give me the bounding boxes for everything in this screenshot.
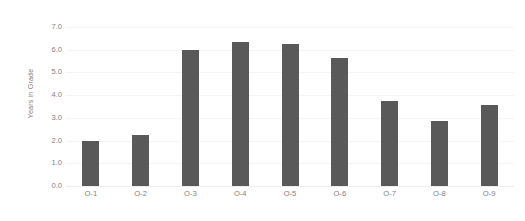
x-axis-tick-labels: O-1O-2O-3O-4O-5O-6O-7O-8O-9 xyxy=(66,190,514,204)
bar-slot xyxy=(265,27,315,186)
bar[interactable] xyxy=(381,101,398,186)
x-tick-label: O-4 xyxy=(234,190,247,198)
x-tick-label: O-8 xyxy=(433,190,446,198)
bar[interactable] xyxy=(282,44,299,186)
gridline xyxy=(66,186,514,187)
bar-slot xyxy=(66,27,116,186)
bar[interactable] xyxy=(132,135,149,186)
bar-slot xyxy=(215,27,265,186)
x-tick-label: O-1 xyxy=(85,190,98,198)
y-tick-label: 1.0 xyxy=(38,159,62,167)
plot-area xyxy=(66,27,514,186)
x-tick-slot: O-2 xyxy=(116,190,166,204)
x-tick-slot: O-6 xyxy=(315,190,365,204)
x-tick-label: O-9 xyxy=(483,190,496,198)
bar-slot xyxy=(414,27,464,186)
bar[interactable] xyxy=(232,42,249,186)
bars-layer xyxy=(66,27,514,186)
bar-slot xyxy=(166,27,216,186)
bar[interactable] xyxy=(481,105,498,186)
bar[interactable] xyxy=(82,141,99,186)
x-tick-label: O-2 xyxy=(134,190,147,198)
x-tick-slot: O-8 xyxy=(414,190,464,204)
bar-slot xyxy=(464,27,514,186)
y-tick-label: 3.0 xyxy=(38,114,62,122)
bar[interactable] xyxy=(331,58,348,186)
x-tick-label: O-6 xyxy=(333,190,346,198)
x-tick-slot: O-9 xyxy=(464,190,514,204)
x-tick-slot: O-3 xyxy=(166,190,216,204)
x-tick-label: O-5 xyxy=(284,190,297,198)
y-tick-label: 6.0 xyxy=(38,46,62,54)
bar-slot xyxy=(315,27,365,186)
x-tick-slot: O-7 xyxy=(365,190,415,204)
bar-slot xyxy=(365,27,415,186)
y-tick-label: 7.0 xyxy=(38,23,62,31)
bar-chart: Years in Grade 7.06.05.04.03.02.01.00.0 … xyxy=(0,0,525,221)
x-tick-label: O-3 xyxy=(184,190,197,198)
x-tick-slot: O-5 xyxy=(265,190,315,204)
bar[interactable] xyxy=(431,121,448,186)
y-tick-label: 0.0 xyxy=(38,182,62,190)
y-tick-label: 4.0 xyxy=(38,91,62,99)
x-tick-slot: O-1 xyxy=(66,190,116,204)
x-tick-slot: O-4 xyxy=(215,190,265,204)
y-axis-tick-labels: 7.06.05.04.03.02.01.00.0 xyxy=(38,0,62,221)
y-tick-label: 2.0 xyxy=(38,137,62,145)
y-axis-title-label: Years in Grade xyxy=(27,68,36,118)
y-tick-label: 5.0 xyxy=(38,69,62,77)
y-axis-title: Years in Grade xyxy=(24,0,38,186)
bar-slot xyxy=(116,27,166,186)
x-tick-label: O-7 xyxy=(383,190,396,198)
bar[interactable] xyxy=(182,50,199,186)
